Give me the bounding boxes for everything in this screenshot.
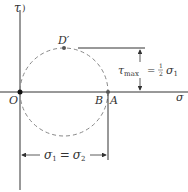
origin-point (18, 90, 23, 95)
sigma-dim-label: σ1=σ2 (44, 148, 85, 163)
tau-max-eq: = (147, 65, 155, 76)
tau-max-frac-den: 2 (159, 70, 163, 77)
point-a-label: A (109, 94, 118, 107)
point-b-label: B (94, 94, 103, 107)
origin-label: O (9, 94, 18, 107)
tau-max-frac-num: 1 (159, 62, 163, 69)
tau-axis-paren: ) (22, 3, 26, 13)
tau-axis-label: τ (14, 1, 21, 15)
tau-max-sigma: σ1 (166, 64, 178, 78)
mohr-circle-diagram: τ ) σ O B A D′ τmax = 1 2 σ1 σ1=σ2 (0, 0, 188, 192)
point-d-prime-label: D′ (57, 34, 70, 47)
sigma-axis-label: σ (176, 91, 184, 104)
tau-max-label: τmax (118, 64, 139, 78)
